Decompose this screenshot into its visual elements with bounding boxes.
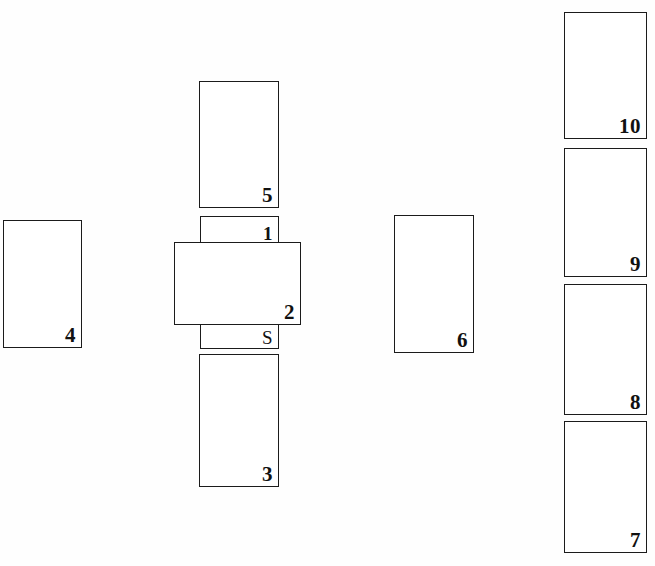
block-4: 4 <box>3 220 82 348</box>
block-10-label: 10 <box>619 116 641 137</box>
block-s: S <box>200 321 279 349</box>
block-5: 5 <box>199 81 279 208</box>
block-6: 6 <box>394 215 474 353</box>
block-7-label: 7 <box>630 530 641 551</box>
block-9: 9 <box>564 148 647 277</box>
block-s-label: S <box>262 328 273 347</box>
block-3-label: 3 <box>262 464 273 485</box>
block-10: 10 <box>564 12 647 139</box>
block-6-label: 6 <box>457 330 468 351</box>
block-5-label: 5 <box>262 185 273 206</box>
block-4-label: 4 <box>65 325 76 346</box>
block-2: 2 <box>174 242 301 325</box>
block-8-label: 8 <box>630 392 641 413</box>
block-8: 8 <box>564 284 647 415</box>
block-1-label: 1 <box>263 224 273 243</box>
block-7: 7 <box>564 421 647 553</box>
block-9-label: 9 <box>630 254 641 275</box>
block-3: 3 <box>199 354 279 487</box>
figure-canvas: 4536109871S2 <box>0 0 655 566</box>
block-2-label: 2 <box>284 302 295 323</box>
